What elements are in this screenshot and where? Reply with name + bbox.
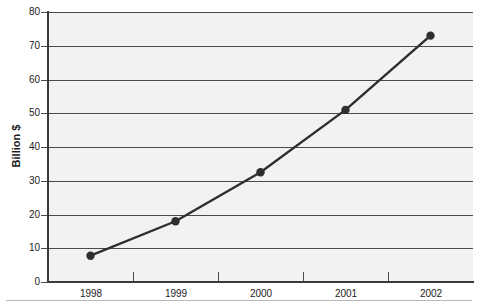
x-axis-tick: [388, 272, 389, 282]
y-axis-tick-label: 10: [18, 243, 40, 253]
gridline: [48, 215, 473, 216]
y-axis-tick: [41, 12, 47, 13]
y-axis-tick: [41, 80, 47, 81]
y-axis-title: Billion $: [10, 106, 22, 186]
y-axis-tick-label: 70: [18, 41, 40, 51]
y-axis-tick-label: 20: [18, 210, 40, 220]
gridline: [48, 181, 473, 182]
y-axis-tick: [41, 147, 47, 148]
y-axis-tick: [41, 215, 47, 216]
x-axis-tick: [218, 272, 219, 282]
line-chart: 01020304050607080 Billion $ 199819992000…: [0, 0, 480, 307]
gridline: [48, 46, 473, 47]
gridline: [48, 113, 473, 114]
gridline: [48, 147, 473, 148]
x-axis-tick-label: 2002: [401, 288, 461, 299]
x-axis-tick-label: 1999: [146, 288, 206, 299]
bottom-divider: [6, 300, 472, 301]
y-axis-tick: [41, 248, 47, 249]
x-axis-tick-label: 2000: [231, 288, 291, 299]
y-axis-tick: [41, 113, 47, 114]
x-axis-tick-label: 1998: [61, 288, 121, 299]
y-axis-tick-label: 0: [18, 277, 40, 287]
y-axis-tick: [41, 46, 47, 47]
x-axis-line: [47, 281, 474, 283]
gridline: [48, 248, 473, 249]
y-axis-tick-label: 80: [18, 7, 40, 17]
y-axis-tick: [41, 282, 47, 283]
gridline: [48, 80, 473, 81]
y-axis-tick-label: 60: [18, 75, 40, 85]
x-axis-tick: [133, 272, 134, 282]
y-axis-tick: [41, 181, 47, 182]
y-axis-line: [47, 11, 49, 283]
gridline: [48, 12, 473, 13]
x-axis-tick-label: 2001: [316, 288, 376, 299]
x-axis-tick: [303, 272, 304, 282]
